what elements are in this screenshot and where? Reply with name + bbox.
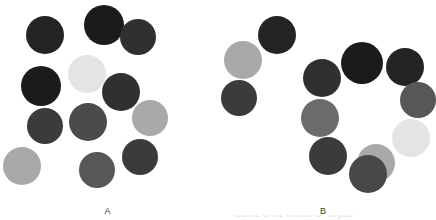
panel-b: B bbox=[215, 0, 431, 220]
panel-a: A bbox=[0, 0, 215, 220]
dot-b-4 bbox=[303, 59, 341, 97]
dot-a-5 bbox=[21, 66, 61, 106]
dot-a-11 bbox=[79, 152, 115, 188]
dot-b-8 bbox=[392, 119, 430, 157]
dot-b-1 bbox=[258, 16, 296, 54]
dot-a-1 bbox=[26, 16, 64, 54]
dot-b-7 bbox=[400, 82, 436, 118]
dot-a-6 bbox=[102, 73, 140, 111]
dot-a-9 bbox=[132, 100, 168, 136]
dot-a-4 bbox=[68, 55, 106, 93]
panel-b-dot-field bbox=[215, 0, 431, 196]
dot-b-3 bbox=[221, 80, 257, 116]
dot-b-5 bbox=[341, 42, 383, 84]
dot-a-10 bbox=[3, 147, 41, 185]
dot-a-7 bbox=[69, 103, 107, 141]
dot-a-2 bbox=[84, 5, 124, 45]
clipped-caption-text: relative to the number of Targets bbox=[233, 215, 431, 219]
dot-a-3 bbox=[120, 19, 156, 55]
dot-a-12 bbox=[122, 139, 158, 175]
dot-b-6 bbox=[386, 48, 424, 86]
dot-b-12 bbox=[349, 155, 387, 193]
dot-b-10 bbox=[301, 99, 339, 137]
dot-b-11 bbox=[309, 137, 347, 175]
dot-b-2 bbox=[224, 41, 262, 79]
clipped-caption-strip: relative to the number of Targets bbox=[0, 215, 431, 220]
panel-a-dot-field bbox=[0, 0, 215, 196]
dot-a-8 bbox=[27, 108, 63, 144]
